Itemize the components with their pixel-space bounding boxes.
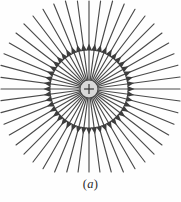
caption-close-paren: ) — [94, 177, 98, 191]
field-line-arrowhead — [128, 86, 135, 92]
field-line — [96, 91, 178, 113]
field-line-arrowhead — [44, 91, 51, 97]
field-line-arrowhead — [81, 44, 87, 51]
field-line — [90, 96, 100, 172]
field-line — [9, 93, 82, 135]
field-line — [78, 96, 88, 172]
field-line — [77, 1, 88, 82]
field-line — [96, 43, 169, 85]
field-line-arrowhead — [91, 127, 97, 134]
field-line-arrowhead — [81, 127, 87, 134]
field-line — [43, 9, 85, 82]
field-line — [1, 90, 82, 101]
field-line — [93, 96, 135, 169]
field-line — [96, 93, 169, 135]
field-line — [93, 9, 135, 82]
field-line — [96, 65, 178, 87]
field-line — [1, 77, 82, 88]
field-line-diagram — [0, 0, 181, 202]
point-charge — [80, 80, 98, 98]
field-line-arrowhead — [44, 86, 51, 92]
electric-field-figure: (a) — [0, 0, 181, 202]
field-line-arrowhead — [44, 81, 51, 87]
field-line — [96, 90, 180, 101]
field-line — [96, 77, 180, 88]
field-line — [90, 1, 101, 82]
field-line — [9, 43, 82, 85]
field-line-arrowhead — [86, 128, 92, 135]
field-line-arrowhead — [91, 44, 97, 51]
field-line — [43, 96, 85, 169]
field-line-arrowhead — [127, 91, 134, 97]
figure-caption: (a) — [0, 176, 181, 192]
field-line-arrowhead — [127, 81, 134, 87]
field-line-arrowhead — [86, 44, 92, 51]
